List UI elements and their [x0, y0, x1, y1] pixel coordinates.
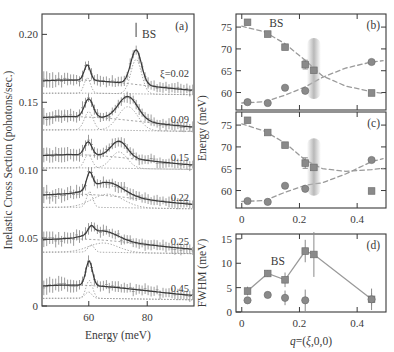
panel-c-datapoint: [302, 185, 309, 192]
panel-c: 6065707500.20.4(c): [221, 112, 386, 225]
panel-a-ytick-label: 0.05: [19, 232, 39, 244]
panel-b-datapoint: [281, 84, 288, 91]
xaxis-label-rest: ,0,0): [311, 335, 332, 348]
panel-a-letter: (a): [175, 20, 188, 33]
panel-c-datapoint: [281, 182, 288, 189]
panel-b-datapoint: [302, 61, 309, 68]
panel-d-yaxis-label: FWHM (meV): [196, 238, 209, 307]
panel-d-xaxis-label: q=(ξ,0,0): [290, 335, 332, 348]
panel-c-xtick-label: 0.4: [350, 213, 364, 225]
panel-d-datapoint: [264, 291, 271, 298]
panel-d: 05101500.20.4BS(d)FWHM (meV)q=(ξ,0,0): [196, 232, 386, 348]
panel-c-datapoint: [368, 188, 375, 195]
panel-b-datapoint: [302, 87, 309, 94]
panel-a-fit-curve: [43, 172, 192, 205]
panel-d-ytick-label: 0: [227, 306, 233, 318]
panel-b-datapoint: [282, 44, 289, 51]
panel-a-xtick-label: 60: [83, 311, 95, 323]
panel-b-ytick-label: 65: [221, 65, 233, 77]
panel-a-xaxis-label: Energy (meV): [85, 329, 151, 342]
panel-c-ytick-label: 75: [221, 119, 233, 131]
panel-d-datapoint: [302, 297, 309, 304]
panel-c-datapoint: [368, 156, 375, 163]
panel-b-datapoint: [244, 19, 251, 26]
panel-d-xtick-label: 0: [239, 317, 245, 329]
panel-d-datapoint: [244, 297, 251, 304]
panel-b-ytick-label: 60: [221, 87, 233, 99]
panel-c-ytick-label: 65: [221, 163, 233, 175]
panel-d-datapoint: [281, 294, 288, 301]
panel-a: 608000.050.100.150.20ξ=0.020.090.150.220…: [2, 14, 194, 342]
panel-b-datapoint: [264, 31, 271, 38]
panel-a-ytick-label: 0.20: [19, 28, 39, 40]
panel-c-ytick-label: 70: [221, 141, 233, 153]
panel-a-ytick-label: 0.10: [19, 164, 39, 176]
panel-a-curve-label: ξ=0.02: [160, 68, 189, 80]
panel-a-curve-label: 0.45: [171, 283, 189, 294]
panel-b-datapoint: [368, 58, 375, 65]
figure-root: 608000.050.100.150.20ξ=0.020.090.150.220…: [0, 0, 394, 352]
panel-d-series: [244, 290, 375, 311]
panel-a-xtick-label: 80: [142, 311, 154, 323]
panel-a-curve-label: 0.22: [171, 192, 189, 203]
panel-c-letter: (c): [367, 117, 380, 130]
panel-a-ytick-label: 0: [33, 300, 39, 312]
panel-b-bs-label: BS: [269, 17, 283, 29]
panel-c-datapoint: [244, 117, 251, 124]
panel-a-spectrum: 0.09: [42, 92, 194, 133]
panel-a-fit-curve: [43, 141, 192, 165]
panel-d-datapoint: [264, 270, 271, 277]
panel-b-datapoint: [311, 67, 318, 74]
panel-b-ytick-label: 75: [221, 21, 233, 33]
panel-c-datapoint: [244, 197, 251, 204]
panel-d-datapoint: [368, 296, 375, 303]
xaxis-label-eq: =(: [296, 335, 306, 348]
panel-a-spectrum: 0.25: [42, 222, 194, 255]
panel-a-datapoints: [42, 255, 194, 302]
panel-c-datapoint: [264, 198, 271, 205]
panel-d-ytick-label: 5: [227, 282, 233, 294]
panel-b-letter: (b): [367, 19, 381, 32]
panel-b-datapoint: [244, 99, 251, 106]
panel-d-xtick-label: 0.2: [293, 317, 307, 329]
panel-d-ytick-label: 15: [221, 233, 233, 245]
panel-a-spectrum: 0.15: [42, 135, 194, 171]
panel-a-curve-label: 0.25: [171, 236, 189, 247]
panel-d-datapoint: [311, 251, 318, 258]
panel-c-xtick-label: 0: [239, 213, 245, 225]
panel-a-fit-curve: [43, 261, 192, 295]
panel-a-curve-label: 0.15: [171, 152, 189, 163]
panel-c-datapoint: [302, 160, 309, 167]
panel-c-datapoint: [282, 142, 289, 149]
panel-a-spectrum: 0.22: [42, 167, 194, 209]
panel-d-letter: (d): [367, 239, 381, 252]
panel-a-spectrum: 0.45: [42, 255, 194, 302]
panel-c-ytick-label: 60: [221, 185, 233, 197]
panel-b: 60657075BS(b)Energy (meV): [196, 14, 386, 161]
panel-d-datapoint: [282, 277, 289, 284]
panel-a-bs-label: BS: [142, 28, 156, 40]
panel-a-curve-label: 0.09: [171, 114, 189, 125]
panel-d-series: [244, 232, 375, 310]
panel-d-xtick-label: 0.4: [350, 317, 364, 329]
figure-canvas: 608000.050.100.150.20ξ=0.020.090.150.220…: [0, 0, 394, 352]
panel-a-datapoints: [42, 92, 194, 133]
panel-a-yaxis-label: Inelastic Cross Section (pohotons/sec.): [2, 70, 15, 249]
panel-d-frame: [236, 234, 386, 312]
panel-a-spectrum: ξ=0.02: [42, 46, 194, 97]
panel-d-ytick-label: 10: [221, 257, 233, 269]
panel-b-datapoint: [264, 99, 271, 106]
panel-b-ytick-label: 70: [221, 43, 233, 55]
panel-c-datapoint: [264, 129, 271, 136]
panel-a-fit-curve: [43, 97, 192, 127]
panel-c-xtick-label: 0.2: [293, 213, 307, 225]
panel-d-bs-label: BS: [271, 255, 285, 267]
panel-b-datapoint: [368, 90, 375, 97]
panels-bc-yaxis-label: Energy (meV): [196, 95, 209, 161]
panel-c-datapoint: [311, 164, 318, 171]
panel-d-datapoint: [302, 248, 309, 255]
panel-a-ytick-label: 0.15: [19, 96, 39, 108]
panel-d-datapoint: [244, 288, 251, 295]
